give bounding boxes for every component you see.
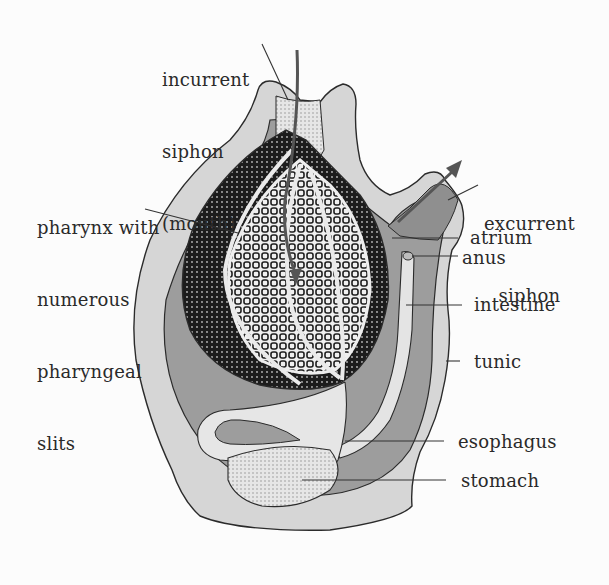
label-line: pharynx with [37,216,159,240]
label-line: incurrent [162,68,250,92]
label-line: pharyngeal [37,360,159,384]
label-anus: anus [462,246,506,270]
label-intestine: intestine [474,293,556,317]
label-line: siphon [162,140,250,164]
label-line: (mouth) [162,212,250,236]
label-stomach: stomach [461,469,539,493]
label-line: slits [37,432,159,456]
label-tunic: tunic [474,350,521,374]
anus-opening [403,252,413,260]
label-pharynx: pharynx with numerous pharyngeal slits [37,168,159,504]
label-line: numerous [37,288,159,312]
diagram-canvas: incurrent siphon (mouth) pharynx with nu… [0,0,609,585]
label-esophagus: esophagus [458,430,557,454]
label-incurrent-siphon: incurrent siphon (mouth) [162,20,250,284]
